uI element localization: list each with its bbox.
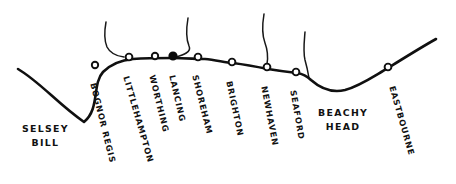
area-label-selsey-bill: SELSEYBILL: [22, 122, 69, 149]
town-marker-seaford[interactable]: [293, 69, 300, 76]
town-marker-littlehampton[interactable]: [126, 54, 133, 61]
river-adur-path: [176, 18, 190, 57]
town-marker-eastbourne[interactable]: [385, 64, 392, 71]
town-marker-shoreham[interactable]: [195, 54, 202, 61]
area-label-beachy-head-line2: HEAD: [318, 120, 368, 134]
town-marker-lancing[interactable]: [169, 52, 177, 60]
area-label-beachy-head-line1: BEACHY: [318, 106, 368, 120]
river-cuckmere-path: [304, 32, 309, 78]
town-marker-worthing[interactable]: [152, 53, 158, 59]
area-label-selsey-bill-line2: BILL: [22, 136, 69, 150]
rivers-group: [105, 14, 309, 78]
area-label-selsey-bill-line1: SELSEY: [22, 122, 69, 136]
town-marker-brighton[interactable]: [229, 59, 236, 66]
river-ouse-path: [263, 14, 268, 64]
town-marker-newhaven[interactable]: [264, 64, 271, 71]
river-arun-path: [105, 22, 124, 57]
area-label-beachy-head: BEACHYHEAD: [318, 106, 368, 133]
coastline-map: BOGNOR REGISLITTLEHAMPTONWORTHINGLANCING…: [0, 0, 456, 184]
town-marker-bognor-regis[interactable]: [92, 62, 98, 68]
